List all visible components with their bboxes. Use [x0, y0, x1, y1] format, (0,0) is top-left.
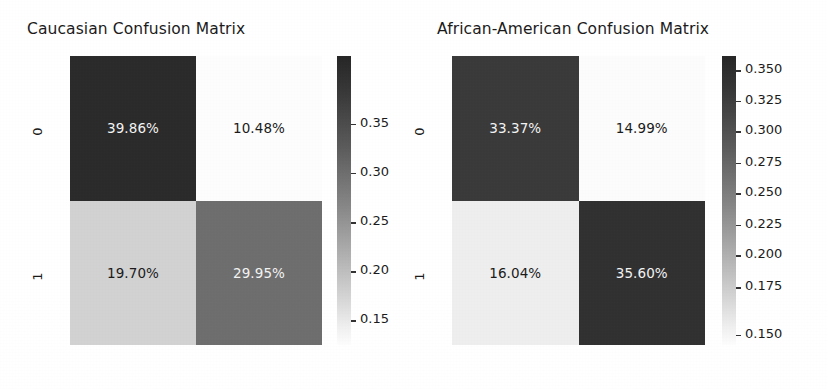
colorbar-tick: 0.200	[736, 255, 800, 256]
cell-value-0-1: 14.99%	[616, 120, 668, 136]
y-tick-label-0-right: 0	[412, 122, 427, 142]
heatmap-cell-1-1: 29.95%	[196, 201, 322, 346]
heatmap-caucasian: 39.86% 10.48% 19.70% 29.95% 0 1	[70, 56, 322, 345]
panel-title-caucasian: Caucasian Confusion Matrix	[27, 20, 245, 38]
colorbar-tick-mark	[736, 287, 741, 288]
colorbar-tick: 0.15	[351, 320, 415, 321]
heatmap-cell-1-0: 16.04%	[452, 201, 579, 346]
colorbar-tick-label: 0.35	[360, 115, 389, 130]
cell-value-1-1: 29.95%	[233, 265, 285, 281]
colorbar-tick-mark	[736, 131, 741, 132]
colorbar-tick: 0.175	[736, 287, 800, 288]
heatmap-cell-0-0: 39.86%	[70, 56, 196, 201]
colorbar-tick-label: 0.250	[745, 184, 782, 199]
colorbar-tick: 0.325	[736, 101, 800, 102]
heatmap-cell-1-1: 35.60%	[579, 201, 706, 346]
colorbar-tick-mark	[736, 335, 741, 336]
colorbar-tick: 0.250	[736, 193, 800, 194]
colorbar-tick-mark	[736, 225, 741, 226]
colorbar-tick-mark	[736, 163, 741, 164]
y-tick-label-1-left: 1	[30, 267, 45, 287]
heatmap-cell-0-0: 33.37%	[452, 56, 579, 201]
colorbar-tick-mark	[351, 124, 356, 125]
confusion-matrix-figure: Caucasian Confusion Matrix 0 1 39.86% 10…	[0, 0, 827, 389]
heatmap-cell-0-1: 14.99%	[579, 56, 706, 201]
panel-caucasian: Caucasian Confusion Matrix 0 1 39.86% 10…	[0, 0, 414, 389]
colorbar-tick: 0.20	[351, 271, 415, 272]
colorbar-tick-label: 0.30	[360, 164, 389, 179]
heatmap-african-american: 33.37% 14.99% 16.04% 35.60% 0 1	[452, 56, 705, 345]
colorbar-tick-label: 0.175	[745, 278, 782, 293]
colorbar-tick-mark	[351, 271, 356, 272]
colorbar-tick-label: 0.150	[745, 326, 782, 341]
panel-african-american: African-American Confusion Matrix 0 1 33…	[413, 0, 827, 389]
colorbar-tick-mark	[736, 70, 741, 71]
colorbar-tick-label: 0.20	[360, 262, 389, 277]
colorbar-tick: 0.350	[736, 70, 800, 71]
colorbar-tick: 0.300	[736, 131, 800, 132]
colorbar-tick-label: 0.15	[360, 311, 389, 326]
colorbar-tick-mark	[736, 193, 741, 194]
cell-value-1-0: 19.70%	[107, 265, 159, 281]
colorbar-tick: 0.25	[351, 222, 415, 223]
colorbar-tick-mark	[736, 101, 741, 102]
cell-value-1-1: 35.60%	[616, 265, 668, 281]
colorbar-tick-label: 0.275	[745, 154, 782, 169]
colorbar-tick: 0.150	[736, 335, 800, 336]
colorbar-tick-mark	[736, 255, 741, 256]
y-tick-label-1-right: 1	[412, 267, 427, 287]
colorbar-tick-label: 0.25	[360, 213, 389, 228]
cell-value-0-1: 10.48%	[233, 120, 285, 136]
colorbar-gradient-left	[337, 56, 351, 345]
colorbar-tick: 0.35	[351, 124, 415, 125]
heatmap-cell-0-1: 10.48%	[196, 56, 322, 201]
colorbar-tick-mark	[351, 173, 356, 174]
cell-value-0-0: 33.37%	[489, 120, 541, 136]
colorbar-tick: 0.225	[736, 225, 800, 226]
colorbar-tick-label: 0.325	[745, 92, 782, 107]
colorbar-tick-label: 0.225	[745, 216, 782, 231]
y-tick-label-0-left: 0	[30, 122, 45, 142]
colorbar-tick-label: 0.350	[745, 61, 782, 76]
colorbar-tick-mark	[351, 222, 356, 223]
cell-value-0-0: 39.86%	[107, 120, 159, 136]
panel-title-african-american: African-American Confusion Matrix	[437, 20, 709, 38]
colorbar-tick: 0.275	[736, 163, 800, 164]
colorbar-tick-label: 0.200	[745, 246, 782, 261]
colorbar-tick-label: 0.300	[745, 122, 782, 137]
cell-value-1-0: 16.04%	[489, 265, 541, 281]
colorbar-tick: 0.30	[351, 173, 415, 174]
colorbar-gradient-right	[722, 56, 736, 345]
colorbar-tick-mark	[351, 320, 356, 321]
heatmap-cell-1-0: 19.70%	[70, 201, 196, 346]
